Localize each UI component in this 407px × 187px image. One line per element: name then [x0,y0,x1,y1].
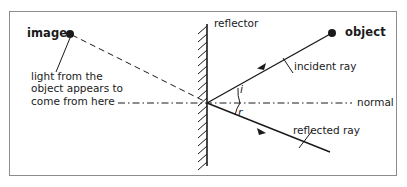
reflected-ray-arrowhead [257,128,266,135]
normal-label: normal [357,96,394,108]
object-point-dot [328,29,336,37]
image-label: image [27,27,67,41]
mirror-hatching [198,26,207,170]
reflected-ray-label: reflected ray [293,124,360,136]
incident-ray-label: incident ray [294,60,356,72]
angle-of-incidence-label: i [240,84,243,97]
caption-leader-line [56,38,70,72]
object-label: object [345,26,386,40]
reflection-diagram: image object reflector normal incident r… [0,0,407,187]
virtual-image-caption: light from the object appears to come fr… [31,70,131,107]
reflector-label: reflector [214,17,258,29]
incident-ray-leader-line [283,58,293,73]
incident-ray-arrowhead [257,63,266,70]
angle-of-reflection-label: r [238,107,243,120]
